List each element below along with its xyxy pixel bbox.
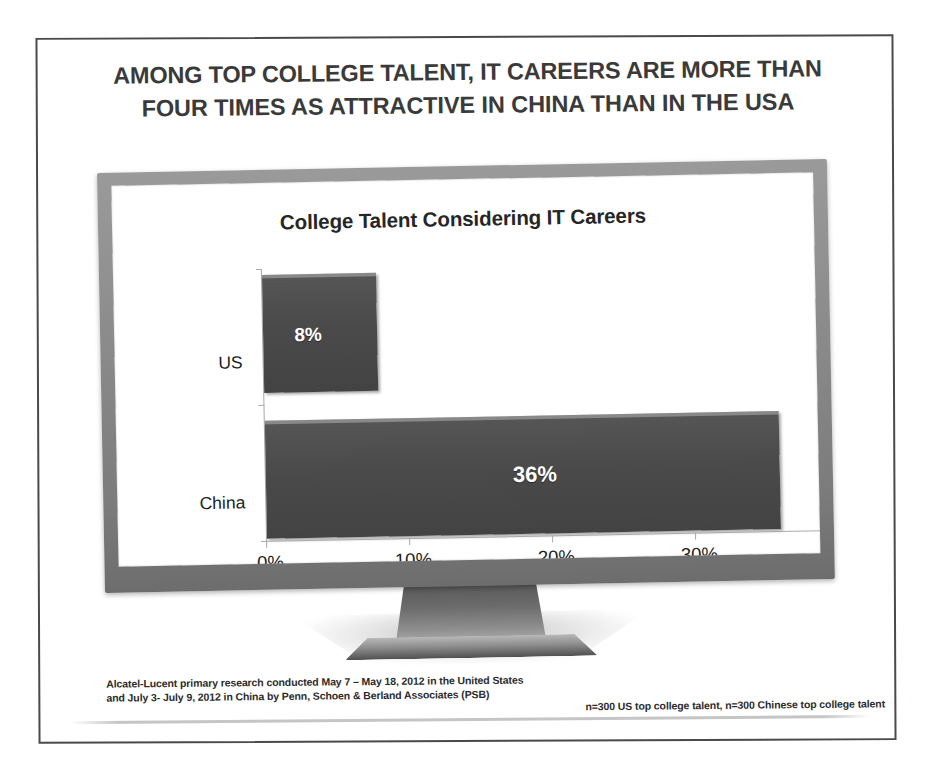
slide-border: AMONG TOP COLLEGE TALENT, IT CAREERS ARE… bbox=[35, 34, 896, 744]
monitor-illustration: College Talent Considering IT Careers US… bbox=[97, 159, 835, 593]
y-axis-tick bbox=[258, 405, 264, 406]
bar-us[interactable]: 8% bbox=[262, 273, 378, 393]
bar-china[interactable]: 36% bbox=[265, 411, 781, 539]
monitor-stand-neck bbox=[395, 583, 546, 642]
x-axis-tick bbox=[552, 535, 553, 542]
slide-headline: AMONG TOP COLLEGE TALENT, IT CAREERS ARE… bbox=[97, 52, 838, 126]
x-axis-tick bbox=[695, 533, 696, 540]
category-label-us: US bbox=[132, 352, 242, 375]
bar-value-us: 8% bbox=[294, 324, 322, 347]
monitor-screen: College Talent Considering IT Careers US… bbox=[111, 172, 820, 566]
y-axis-tick bbox=[256, 269, 262, 270]
footnote-source-line-2: and July 3- July 9, 2012 in China by Pen… bbox=[106, 687, 523, 705]
footnote-divider bbox=[70, 715, 870, 724]
x-axis-tick bbox=[409, 538, 410, 545]
bar-chart-plot-area: US China 8% 36% 0% 10% bbox=[112, 238, 820, 566]
footnote-sample-size: n=300 US top college talent, n=300 Chine… bbox=[585, 697, 885, 712]
category-label-china: China bbox=[135, 492, 245, 515]
footnote-source: Alcatel-Lucent primary research conducte… bbox=[106, 673, 523, 705]
headline-line-2: FOUR TIMES AS ATTRACTIVE IN CHINA THAN I… bbox=[98, 85, 838, 126]
x-axis-tick bbox=[266, 541, 267, 548]
bar-value-china: 36% bbox=[513, 461, 558, 488]
chart-title: College Talent Considering IT Careers bbox=[112, 200, 814, 237]
